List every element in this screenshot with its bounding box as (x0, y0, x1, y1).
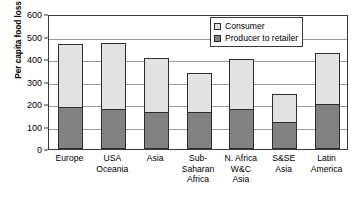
bar-group[interactable] (101, 14, 126, 149)
bar-segment-producer[interactable] (144, 112, 169, 149)
legend-label-consumer: Consumer (225, 21, 265, 31)
bar-segment-producer[interactable] (187, 112, 212, 149)
y-tick-400: 400 (2, 55, 42, 65)
bar-segment-producer[interactable] (229, 109, 254, 149)
x-tick-label: Latin America (296, 153, 355, 174)
bar-segment-consumer[interactable] (187, 73, 212, 113)
bar-segment-producer[interactable] (272, 122, 297, 149)
y-tick-600: 600 (2, 10, 42, 20)
y-tick-0: 0 (2, 145, 42, 155)
legend-item-consumer: Consumer (214, 20, 298, 32)
bar-segment-consumer[interactable] (272, 94, 297, 123)
chart-legend: Consumer Producer to retailer (210, 17, 303, 47)
bar-segment-consumer[interactable] (144, 58, 169, 113)
bar-group[interactable] (58, 14, 83, 149)
legend-item-producer: Producer to retailer (214, 32, 298, 44)
light-gray-swatch-icon (214, 23, 221, 30)
bar-segment-consumer[interactable] (315, 53, 340, 105)
y-tick-500: 500 (2, 33, 42, 43)
bar-segment-consumer[interactable] (101, 43, 126, 110)
food-loss-stacked-bar-chart: Per capita food loss kg/yr 0100200300400… (0, 0, 355, 199)
bar-segment-producer[interactable] (315, 104, 340, 149)
bar-group[interactable] (315, 14, 340, 149)
legend-label-producer: Producer to retailer (225, 33, 298, 43)
bar-segment-producer[interactable] (101, 109, 126, 149)
bar-segment-producer[interactable] (58, 107, 83, 149)
y-tick-200: 200 (2, 100, 42, 110)
y-tick-300: 300 (2, 78, 42, 88)
bar-segment-consumer[interactable] (58, 44, 83, 107)
dark-gray-swatch-icon (214, 35, 221, 42)
bar-group[interactable] (187, 14, 212, 149)
bar-segment-consumer[interactable] (229, 59, 254, 110)
bar-group[interactable] (144, 14, 169, 149)
y-tick-100: 100 (2, 123, 42, 133)
